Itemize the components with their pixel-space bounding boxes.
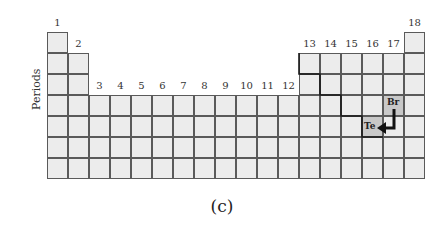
arrowhead-icon — [377, 122, 386, 134]
staircase-and-arrow — [0, 0, 444, 228]
figure-caption: (c) — [200, 196, 244, 216]
metalloid-staircase-line — [299, 53, 383, 137]
